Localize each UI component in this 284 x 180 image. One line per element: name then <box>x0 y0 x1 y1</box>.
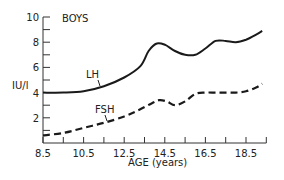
y-tick-label: 10 <box>26 12 39 23</box>
chart-title: BOYS <box>62 13 88 24</box>
lh-annotation: LH <box>86 69 99 80</box>
lh-series-line <box>43 31 262 93</box>
y-tick-label: 6 <box>33 62 39 73</box>
y-ticks: 246810 <box>26 12 50 130</box>
y-tick-label: 2 <box>33 113 39 124</box>
axes <box>43 17 266 143</box>
x-tick-label: 8.5 <box>35 148 51 159</box>
chart: 246810 8.510.512.514.516.518.5 BOYS IU/l… <box>0 0 284 180</box>
x-tick-label: 16.5 <box>194 148 216 159</box>
lh-annotation-arrow <box>98 80 100 86</box>
fsh-annotation: FSH <box>95 104 114 115</box>
y-tick-label: 4 <box>33 88 39 99</box>
x-axis-label: AGE (years) <box>128 157 187 168</box>
x-tick-label: 10.5 <box>72 148 94 159</box>
x-ticks: 8.510.512.514.516.518.5 <box>35 137 266 159</box>
x-tick-label: 18.5 <box>235 148 257 159</box>
y-tick-label: 8 <box>33 37 39 48</box>
fsh-annotation-arrow <box>105 115 107 121</box>
y-axis-label: IU/l <box>12 80 28 91</box>
